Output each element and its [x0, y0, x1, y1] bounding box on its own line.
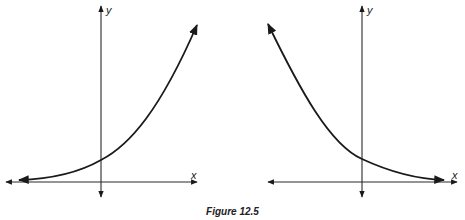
right-y-label: y: [366, 4, 374, 16]
right-x-label: x: [451, 169, 458, 181]
left-growth-curve: [19, 25, 197, 180]
figure-caption: Figure 12.5: [0, 206, 465, 217]
right-decay-curve: [268, 24, 444, 180]
left-x-label: x: [190, 169, 197, 181]
left-y-label: y: [105, 4, 113, 16]
figure-canvas: y x y x: [0, 0, 465, 220]
left-graph: y x: [6, 4, 197, 197]
right-graph: y x: [268, 4, 458, 197]
